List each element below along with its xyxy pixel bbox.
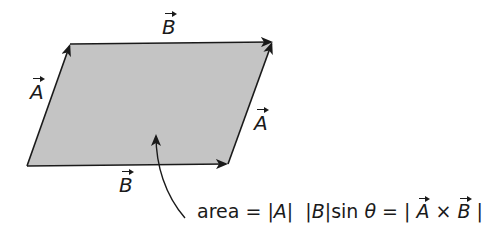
formula-times: × (429, 200, 457, 222)
label-vector-b-top: B (162, 17, 176, 37)
formula-eq: = | (376, 200, 416, 222)
area-formula: area = |A| |B|sin θ = | A × B | (197, 202, 483, 221)
label-vector-a-left: A (30, 82, 44, 102)
formula-prefix: area = (197, 200, 267, 222)
formula-space (293, 200, 305, 222)
formula-close: | (471, 200, 483, 222)
cross-product-diagram: B A A B area = |A| |B|sin θ = | A × B | (0, 0, 492, 237)
formula-abs-b: |B| (305, 200, 331, 222)
label-vector-a-right: A (254, 113, 268, 133)
formula-theta: θ (364, 200, 376, 222)
formula-vec-b: B (457, 202, 470, 221)
formula-sin: sin (331, 200, 364, 222)
label-vector-b-bottom: B (119, 175, 133, 195)
formula-abs-a: |A| (267, 200, 293, 222)
formula-vec-a: A (416, 202, 429, 221)
